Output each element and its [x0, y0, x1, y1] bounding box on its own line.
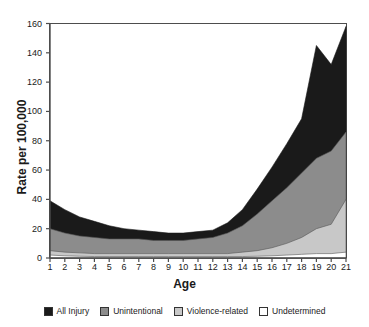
legend-label: Undetermined [272, 306, 325, 316]
stacked-area-chart: 020406080100120140160 123456789101112131… [0, 0, 369, 327]
legend-item: Unintentional [100, 306, 163, 316]
y-axis-title: Rate per 100,000 [15, 67, 29, 227]
legend-label: All Injury [57, 306, 90, 316]
x-tick-label: 21 [336, 262, 356, 272]
chart-legend: All InjuryUnintentionalViolence-relatedU… [0, 306, 369, 316]
legend-item: Violence-related [174, 306, 248, 316]
legend-label: Unintentional [113, 306, 163, 316]
legend-swatch-all-injury [44, 307, 53, 316]
legend-swatch-violence-related [174, 307, 183, 316]
legend-item: All Injury [44, 306, 90, 316]
legend-swatch-unintentional [100, 307, 109, 316]
x-axis-title: Age [0, 277, 369, 291]
legend-item: Undetermined [259, 306, 325, 316]
legend-swatch-undetermined [259, 307, 268, 316]
legend-label: Violence-related [187, 306, 248, 316]
